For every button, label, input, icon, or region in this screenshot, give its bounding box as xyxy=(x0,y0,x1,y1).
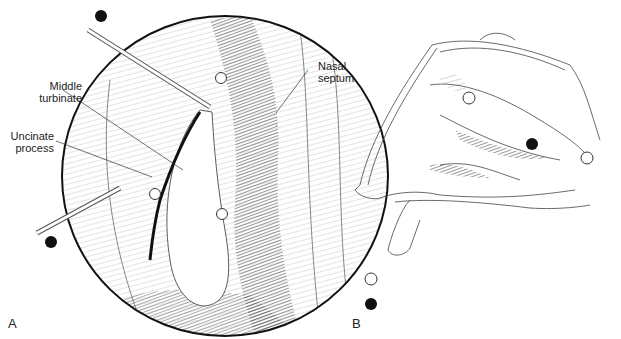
label-line: process xyxy=(8,142,54,154)
sagittal-shading xyxy=(430,74,550,178)
filled-marker xyxy=(95,10,107,22)
legend-open-circle-icon xyxy=(365,273,377,285)
label-line: Nasal xyxy=(318,60,354,72)
label-line: septum xyxy=(318,72,354,84)
open-marker xyxy=(216,73,227,84)
label-line: turbinate xyxy=(24,92,82,104)
panel-a-letter: A xyxy=(8,316,17,331)
open-marker xyxy=(581,152,593,164)
open-marker xyxy=(150,189,161,200)
filled-marker xyxy=(526,138,538,150)
label-middle-turbinate: Middle turbinate xyxy=(24,80,82,104)
filled-marker xyxy=(45,236,57,248)
label-nasal-septum: Nasal septum xyxy=(318,60,354,84)
illustration xyxy=(0,0,621,339)
label-uncinate-process: Uncinate process xyxy=(8,130,54,154)
legend-filled-circle-icon xyxy=(365,298,377,310)
open-marker xyxy=(463,92,475,104)
label-line: Middle xyxy=(24,80,82,92)
open-marker xyxy=(217,209,228,220)
panel-b-letter: B xyxy=(352,316,361,331)
label-line: Uncinate xyxy=(8,130,54,142)
